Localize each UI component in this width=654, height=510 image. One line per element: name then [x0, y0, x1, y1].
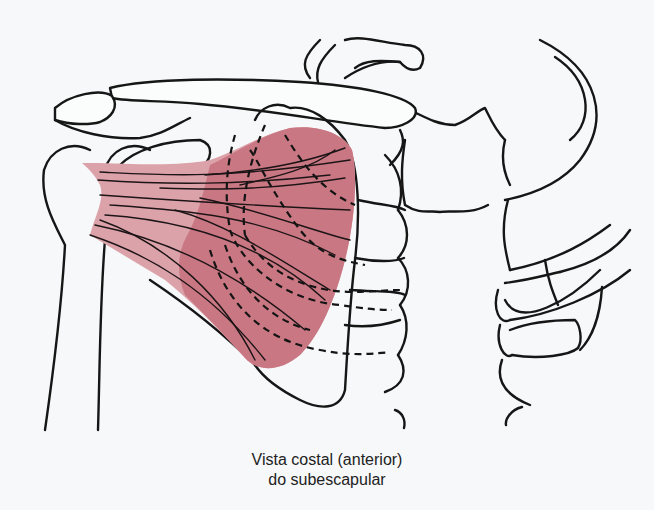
figure-caption: Vista costal (anterior) do subescapular	[0, 450, 654, 490]
clavicle	[110, 80, 416, 128]
caption-line-2: do subescapular	[0, 470, 654, 490]
rib-cage	[496, 40, 630, 425]
caption-line-1: Vista costal (anterior)	[0, 450, 654, 470]
subscapularis-illustration	[0, 0, 654, 510]
sternum	[402, 108, 510, 212]
coracoid-process	[305, 38, 423, 82]
subscapularis-muscle	[82, 125, 400, 368]
